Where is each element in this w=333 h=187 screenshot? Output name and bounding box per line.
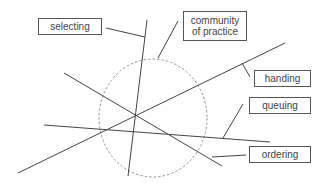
handing-label-text: handing: [265, 73, 301, 84]
ordering-connector: [212, 155, 246, 157]
community-boundary-circle: [99, 59, 207, 177]
selecting-line: [128, 20, 147, 176]
handing-label: handing: [254, 70, 311, 87]
ordering-label-text: ordering: [262, 149, 299, 160]
community-of-practice-label: community of practice: [183, 11, 247, 41]
selecting-label: selecting: [38, 18, 102, 35]
queuing-label: queuing: [249, 97, 311, 114]
queuing-connector: [223, 104, 243, 138]
ordering-label: ordering: [249, 146, 311, 163]
selecting-connector: [106, 28, 145, 37]
ordering-line: [64, 73, 222, 166]
community-label-line2: of practice: [192, 26, 238, 37]
community-connector: [158, 21, 178, 58]
community-label-line1: community: [191, 15, 239, 26]
handing-connector: [242, 63, 250, 77]
handing-line: [18, 43, 285, 173]
selecting-label-text: selecting: [50, 21, 89, 32]
queuing-label-text: queuing: [262, 100, 298, 111]
